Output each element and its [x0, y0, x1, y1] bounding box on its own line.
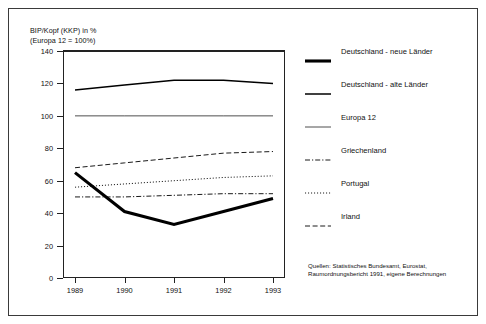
x-axis-tick	[75, 278, 76, 283]
chart-legend: Deutschland - neue LänderDeutschland - a…	[305, 45, 470, 243]
y-axis-label: 80	[27, 144, 53, 153]
legend-label: Irland	[341, 212, 360, 221]
y-axis-label: 40	[27, 209, 53, 218]
series-line	[75, 152, 273, 168]
legend-label: Deutschland - neue Länder	[341, 47, 433, 56]
chart-lines	[63, 51, 285, 278]
x-axis-tick	[125, 278, 126, 283]
line-thick-solid-icon	[305, 52, 331, 62]
legend-item[interactable]: Europa 12	[305, 111, 470, 144]
legend-item[interactable]: Irland	[305, 210, 470, 243]
line-thin-solid-icon	[305, 118, 331, 128]
legend-label: Portugal	[341, 179, 369, 188]
x-axis-tick	[273, 278, 274, 283]
y-axis-label: 140	[27, 47, 53, 56]
legend-item[interactable]: Deutschland - alte Länder	[305, 78, 470, 111]
x-axis-tick	[174, 278, 175, 283]
legend-item[interactable]: Griechenland	[305, 144, 470, 177]
legend-label: Europa 12	[341, 113, 376, 122]
legend-item[interactable]: Portugal	[305, 177, 470, 210]
line-medium-solid-icon	[305, 85, 331, 95]
x-axis-label: 1989	[55, 286, 95, 295]
y-axis-label: 20	[27, 241, 53, 250]
source-note: Quellen: Statistisches Bundesamt, Eurost…	[308, 262, 466, 278]
x-axis-label: 1992	[204, 286, 244, 295]
line-dashed-icon	[305, 217, 331, 227]
chart-page: BIP/Kopf (KKP) in % (Europa 12 = 100%) 0…	[0, 0, 486, 324]
x-axis-label: 1990	[105, 286, 145, 295]
legend-label: Griechenland	[341, 146, 386, 155]
y-axis-label: 60	[27, 177, 53, 186]
y-axis-tick	[57, 278, 63, 279]
line-dash-dot-icon	[305, 151, 331, 161]
legend-item[interactable]: Deutschland - neue Länder	[305, 45, 470, 78]
legend-label: Deutschland - alte Länder	[341, 80, 428, 89]
x-axis-label: 1991	[154, 286, 194, 295]
axis-title: BIP/Kopf (KKP) in % (Europa 12 = 100%)	[30, 26, 96, 45]
series-line	[75, 176, 273, 187]
y-axis-label: 100	[27, 112, 53, 121]
x-axis-tick	[224, 278, 225, 283]
series-line	[75, 80, 273, 90]
x-axis-label: 1993	[253, 286, 293, 295]
y-axis-label: 0	[27, 274, 53, 283]
line-dotted-icon	[305, 184, 331, 194]
y-axis-label: 120	[27, 79, 53, 88]
